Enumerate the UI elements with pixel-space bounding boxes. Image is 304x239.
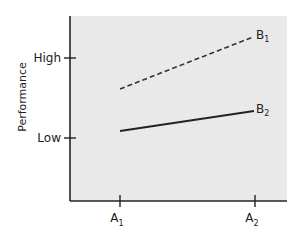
y-tick-label-high: High [33, 51, 61, 65]
interaction-chart: High Low Performance A1 A2 B1 B2 [0, 0, 304, 239]
y-axis-label: Performance [16, 62, 29, 132]
plot-area [70, 16, 287, 201]
x-tick-label-a1: A1 [110, 211, 123, 228]
x-tick-label-a2: A2 [245, 211, 258, 228]
y-tick-label-low: Low [37, 131, 61, 145]
